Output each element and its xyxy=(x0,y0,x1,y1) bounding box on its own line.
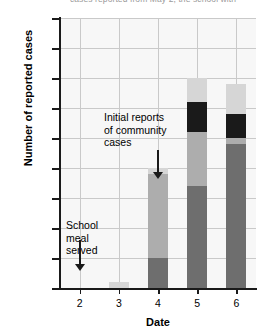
x-tick-label-5: 5 xyxy=(182,297,212,309)
y-tick-mark-45 xyxy=(52,18,59,20)
annotation-label-initial-reports-community-cases: Initial reports of community cases xyxy=(104,111,166,149)
y-tick-mark-20 xyxy=(52,168,59,170)
bar-date-5 xyxy=(187,78,207,288)
x-axis-title: Date xyxy=(60,316,256,328)
bar-segment-5-segment-1-dark-gray xyxy=(187,186,207,288)
y-tick-mark-10 xyxy=(52,228,59,230)
y-axis-line xyxy=(59,17,61,289)
annotation-arrow-initial-reports-community-cases xyxy=(152,150,164,179)
x-tick-mark-3 xyxy=(119,288,121,294)
bar-segment-4-segment-1-dark-gray xyxy=(148,258,168,288)
bar-date-6 xyxy=(226,84,246,288)
y-tick-mark-0 xyxy=(52,288,59,290)
bar-segment-4-segment-2-medium-gray xyxy=(148,174,168,258)
y-axis-title: Number of reported cases xyxy=(22,8,34,188)
y-tick-mark-35 xyxy=(52,78,59,80)
arrow-down-icon xyxy=(153,172,163,179)
bar-segment-6-segment-1-dark-gray xyxy=(226,144,246,288)
x-tick-label-6: 6 xyxy=(221,297,251,309)
bar-segment-5-segment-4-light-gray xyxy=(187,78,207,102)
x-tick-mark-6 xyxy=(236,288,238,294)
arrow-down-icon xyxy=(75,264,85,271)
x-tick-mark-5 xyxy=(197,288,199,294)
bar-segment-5-segment-2-medium-gray xyxy=(187,132,207,186)
clipped-chart-title: cases reported from May 2, the school wi… xyxy=(47,0,259,4)
bar-segment-6-segment-3-black xyxy=(226,114,246,138)
x-tick-label-3: 3 xyxy=(104,297,134,309)
x-tick-mark-4 xyxy=(158,288,160,294)
arrow-shaft-icon xyxy=(79,240,81,264)
y-tick-mark-5 xyxy=(52,258,59,260)
annotation-arrow-school-meal-served xyxy=(74,240,86,271)
y-tick-mark-15 xyxy=(52,198,59,200)
arrow-shaft-icon xyxy=(157,150,159,172)
bar-segment-5-segment-3-black xyxy=(187,102,207,132)
gridline-x-3 xyxy=(119,18,120,288)
x-tick-label-4: 4 xyxy=(143,297,173,309)
x-tick-label-2: 2 xyxy=(65,297,95,309)
y-tick-mark-40 xyxy=(52,48,59,50)
x-tick-mark-2 xyxy=(80,288,82,294)
bar-segment-6-segment-4-light-gray xyxy=(226,84,246,114)
y-tick-mark-25 xyxy=(52,138,59,140)
stacked-bar-chart: cases reported from May 2, the school wi… xyxy=(0,0,262,336)
bar-segment-6-segment-2-medium-gray xyxy=(226,138,246,144)
y-tick-mark-30 xyxy=(52,108,59,110)
bar-date-4 xyxy=(148,168,168,288)
